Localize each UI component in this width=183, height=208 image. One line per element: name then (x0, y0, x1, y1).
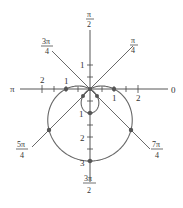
svg-text:4: 4 (20, 151, 24, 160)
svg-text:π: π (131, 36, 135, 45)
tick-label-right-1: 1 (112, 93, 117, 103)
svg-text:4: 4 (131, 46, 135, 55)
svg-text:π: π (87, 10, 91, 19)
angle-label-pi-2: π 2 (86, 10, 94, 29)
angle-label-7pi-4: 7π 4 (151, 140, 163, 160)
tick-label-left-1: 1 (64, 76, 69, 86)
angle-label-3pi-4: 3π 4 (41, 37, 53, 56)
svg-text:2: 2 (87, 186, 91, 195)
tick-label-up-1: 1 (80, 60, 85, 70)
svg-text:4: 4 (45, 47, 49, 56)
ray-3pi-4 (52, 51, 90, 89)
tick-label-right-2: 2 (136, 93, 141, 103)
svg-text:4: 4 (155, 151, 159, 160)
ray-pi-4 (90, 46, 133, 89)
angle-label-0: 0 (171, 85, 176, 95)
tick-label-left-2: 2 (40, 75, 45, 85)
polar-chart: 1 2 1 2 1 1 2 3 0 π π 2 π 4 3π 4 5π 4 3π… (0, 0, 183, 208)
svg-text:3π: 3π (42, 37, 50, 46)
angle-label-5pi-4: 5π 4 (16, 140, 28, 160)
tick-label-down-2: 2 (80, 133, 85, 143)
svg-text:3π: 3π (84, 174, 92, 183)
angle-label-pi-4: π 4 (130, 36, 138, 55)
svg-text:5π: 5π (17, 140, 25, 149)
tick-label-down-3: 3 (80, 158, 85, 168)
ray-7pi-4 (90, 89, 150, 149)
tick-label-down-1: 1 (79, 109, 84, 119)
angle-label-3pi-2: 3π 2 (83, 174, 96, 195)
svg-text:2: 2 (87, 20, 91, 29)
svg-text:7π: 7π (152, 140, 160, 149)
angle-label-pi: π (10, 84, 15, 94)
